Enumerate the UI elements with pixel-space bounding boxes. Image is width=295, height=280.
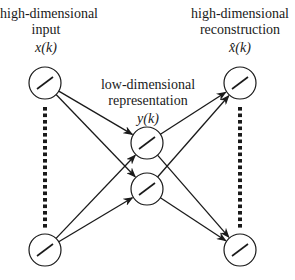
node-latent-top (131, 127, 163, 159)
ellipsis-dot (238, 153, 242, 157)
ellipsis-dot (43, 127, 47, 131)
ellipsis-dot (43, 120, 47, 124)
nodes-group (29, 67, 256, 266)
ellipsis-dot (238, 133, 242, 137)
ellipsis-dot (43, 211, 47, 215)
ellipsis-dot (238, 146, 242, 150)
ellipsis-dot (238, 185, 242, 189)
node-out-bottom (224, 234, 256, 266)
edge-in-bottom-to-latent-bottom (59, 198, 133, 242)
edges-group (56, 91, 229, 242)
edge-in-top-to-latent-top (59, 91, 133, 134)
ellipsis-dot (43, 224, 47, 228)
edge-in-bottom-to-latent-top (56, 155, 135, 238)
edge-in-top-to-latent-bottom (56, 95, 135, 177)
ellipsis-dot (238, 166, 242, 170)
ellipsis-dots (43, 107, 242, 228)
ellipsis-dot (238, 107, 242, 111)
ellipsis-dot (43, 205, 47, 209)
ellipsis-dot (238, 218, 242, 222)
node-in-bottom (29, 234, 61, 266)
ellipsis-dot (43, 166, 47, 170)
ellipsis-dot (43, 153, 47, 157)
ellipsis-dot (43, 172, 47, 176)
ellipsis-dot (238, 211, 242, 215)
edge-latent-bottom-to-out-bottom (160, 198, 225, 241)
edge-latent-bottom-to-out-top (158, 96, 229, 177)
ellipsis-dot (43, 140, 47, 144)
ellipsis-dot (238, 205, 242, 209)
ellipsis-dot (43, 218, 47, 222)
node-latent-bottom (131, 173, 163, 205)
ellipsis-dot (238, 159, 242, 163)
node-in-top (29, 67, 61, 99)
ellipsis-dot (43, 114, 47, 118)
ellipsis-dot (43, 107, 47, 111)
ellipsis-dot (238, 140, 242, 144)
ellipsis-dot (43, 192, 47, 196)
ellipsis-dot (238, 179, 242, 183)
ellipsis-dot (238, 127, 242, 131)
ellipsis-dot (238, 198, 242, 202)
ellipsis-dot (43, 146, 47, 150)
ellipsis-dot (238, 120, 242, 124)
edge-latent-top-to-out-bottom (157, 155, 228, 237)
ellipsis-dot (238, 224, 242, 228)
ellipsis-dot (238, 114, 242, 118)
ellipsis-dot (43, 133, 47, 137)
ellipsis-dot (43, 185, 47, 189)
ellipsis-dot (43, 179, 47, 183)
ellipsis-dot (238, 172, 242, 176)
ellipsis-dot (43, 159, 47, 163)
network-diagram (0, 0, 295, 280)
ellipsis-dot (43, 198, 47, 202)
ellipsis-dot (238, 192, 242, 196)
node-out-top (224, 67, 256, 99)
edge-latent-top-to-out-top (160, 92, 225, 134)
